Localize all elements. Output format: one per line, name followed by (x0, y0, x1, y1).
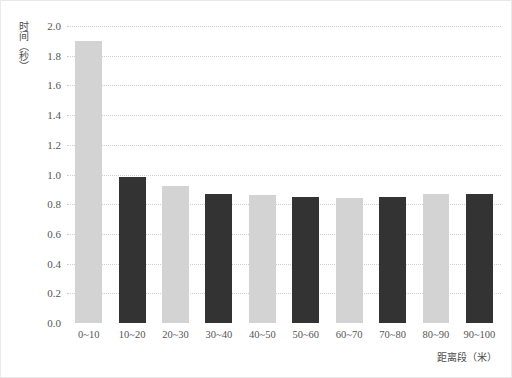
x-axis-tick-label: 50~60 (284, 329, 327, 347)
bar-slot (327, 26, 370, 323)
bar-slot (197, 26, 240, 323)
x-axis-tick-label: 10~20 (110, 329, 153, 347)
bar-slot (284, 26, 327, 323)
x-axis-tick-label: 90~100 (458, 329, 501, 347)
y-axis-tick-label: 0.4 (31, 258, 61, 270)
x-axis-tick-labels: 0~1010~2020~3030~4040~5050~6060~7070~808… (67, 329, 501, 347)
y-axis-tick-label: 1.2 (31, 139, 61, 151)
bar (336, 198, 363, 323)
bar (75, 41, 102, 323)
bar-slot (110, 26, 153, 323)
bar-slot (458, 26, 501, 323)
bar (423, 194, 450, 323)
x-axis-tick-label: 40~50 (241, 329, 284, 347)
plot-area (67, 26, 501, 323)
bars-group (67, 26, 501, 323)
x-axis-tick-label: 70~80 (371, 329, 414, 347)
bar-slot (241, 26, 284, 323)
x-axis-tick-label: 20~30 (154, 329, 197, 347)
bar (162, 186, 189, 323)
y-axis-tick-label: 0.6 (31, 228, 61, 240)
y-axis-tick-label: 2.0 (31, 20, 61, 32)
bar-slot (154, 26, 197, 323)
bar (292, 197, 319, 323)
y-axis-tick-label: 0.2 (31, 287, 61, 299)
y-axis-tick-label: 0.8 (31, 198, 61, 210)
x-axis-tick-label: 80~90 (414, 329, 457, 347)
bar-slot (67, 26, 110, 323)
bar-slot (414, 26, 457, 323)
bar (205, 194, 232, 323)
bar-slot (371, 26, 414, 323)
x-axis-tick-label: 60~70 (327, 329, 370, 347)
x-axis-title: 距离段（米） (437, 349, 497, 364)
y-axis-tick-label: 1.4 (31, 109, 61, 121)
y-axis-tick-label: 1.8 (31, 50, 61, 62)
x-axis-tick-label: 30~40 (197, 329, 240, 347)
bar (249, 195, 276, 323)
y-axis-tick-label: 0.0 (31, 317, 61, 329)
bar (379, 197, 406, 323)
bar (466, 194, 493, 323)
bar-chart-figure: 时间（秒） 0.00.20.40.60.81.01.21.41.61.82.0 … (0, 0, 512, 378)
bar (119, 177, 146, 323)
y-axis-tick-label: 1.6 (31, 79, 61, 91)
y-axis-tick-label: 1.0 (31, 169, 61, 181)
x-axis-tick-label: 0~10 (67, 329, 110, 347)
